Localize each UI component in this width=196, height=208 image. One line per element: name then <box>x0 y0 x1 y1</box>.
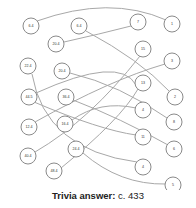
node: 11 <box>135 129 151 145</box>
node-label: 44.5 <box>26 95 33 99</box>
node-label: 8 <box>173 120 175 124</box>
node: 48.4 <box>46 163 62 179</box>
node-label: 4 <box>142 108 144 112</box>
node: 3 <box>164 53 180 69</box>
node-label: 6 <box>173 147 175 151</box>
nodes: 6.46.420.422.420.444.536.412.416.440.424… <box>20 14 183 190</box>
answer-value: c. 433 <box>118 190 144 201</box>
node-label: 7 <box>137 20 139 24</box>
edge <box>34 102 136 135</box>
node: 13 <box>135 75 151 91</box>
edge <box>83 153 166 184</box>
node: 12.4 <box>21 119 37 135</box>
trivia-answer: Trivia answer: c. 433 <box>0 190 196 201</box>
node: 7 <box>130 14 146 30</box>
edge <box>35 56 140 152</box>
edge <box>32 74 137 162</box>
node: 6.4 <box>23 18 39 34</box>
node-label: 6.4 <box>77 24 82 28</box>
node-label: 13 <box>141 81 145 85</box>
node-label: 4 <box>142 165 144 169</box>
node-label: 20.4 <box>53 42 60 46</box>
node-label: 1 <box>171 22 173 26</box>
node-label: 3 <box>171 59 173 63</box>
node: 40.4 <box>20 148 36 164</box>
node: 44.5 <box>21 89 37 105</box>
node: 6 <box>166 141 182 157</box>
node-label: 6.4 <box>29 24 34 28</box>
node: 20.4 <box>48 36 64 52</box>
node: 36.4 <box>58 89 74 105</box>
node: 22.4 <box>20 58 36 74</box>
node-label: 22.4 <box>25 64 32 68</box>
node-label: 48.4 <box>51 169 58 173</box>
node-label: 16.4 <box>62 122 69 126</box>
node-label: 15 <box>141 47 145 51</box>
edges <box>32 8 169 184</box>
node: 20.4 <box>54 63 70 79</box>
edge <box>37 8 166 21</box>
node: 2 <box>167 89 183 105</box>
node: 16.4 <box>57 116 73 132</box>
node: 4 <box>135 159 151 175</box>
edge <box>36 72 136 93</box>
node-label: 12.4 <box>26 125 33 129</box>
node: 6.4 <box>71 18 87 34</box>
node-label: 2 <box>174 95 176 99</box>
node-label: 5 <box>172 183 174 187</box>
node-label: 24.4 <box>73 147 80 151</box>
node-label: 11 <box>141 135 145 139</box>
node: 1 <box>164 16 180 32</box>
node-label: 20.4 <box>59 69 66 73</box>
answer-label: Trivia answer: <box>52 190 115 201</box>
node-label: 36.4 <box>63 95 70 99</box>
node: 4 <box>135 102 151 118</box>
node: 24.4 <box>68 141 84 157</box>
node-label: 40.4 <box>25 154 32 158</box>
matching-diagram: 6.46.420.422.420.444.536.412.416.440.424… <box>0 0 196 190</box>
node: 5 <box>165 177 181 190</box>
node: 15 <box>135 41 151 57</box>
node: 8 <box>166 114 182 130</box>
